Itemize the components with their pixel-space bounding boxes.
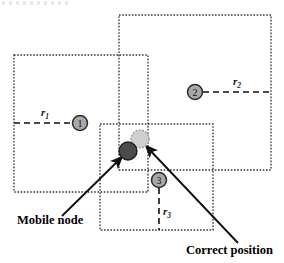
radius-label-r2-subscript: 2	[236, 81, 241, 90]
radius-label-r3-subscript: 3	[166, 211, 171, 220]
radius-label-r3: r3	[163, 205, 171, 220]
figure-canvas: r1 r2 r3 1 2 3	[0, 0, 284, 263]
callout-arrows	[62, 146, 238, 243]
radius-lines	[14, 92, 271, 230]
mobile-node-marker[interactable]	[119, 142, 137, 160]
radius-label-r2: r2	[233, 75, 241, 90]
coverage-regions	[14, 15, 271, 230]
anchor-node-3[interactable]: 3	[152, 173, 167, 188]
diagram-svg: r1 r2 r3 1 2 3	[0, 0, 284, 263]
radius-label-r1-subscript: 1	[45, 112, 49, 121]
correct-position-label: Correct position	[186, 243, 273, 257]
anchor-3-number: 3	[157, 175, 162, 186]
mobile-node-pointer-arrow	[62, 157, 122, 216]
anchor-node-1[interactable]: 1	[73, 116, 88, 131]
anchor-2-number: 2	[193, 87, 198, 98]
anchor-1-number: 1	[78, 118, 83, 129]
radius-label-r1: r1	[41, 106, 49, 121]
anchor-node-2[interactable]: 2	[188, 85, 203, 100]
mobile-node-label: Mobile node	[17, 213, 84, 227]
